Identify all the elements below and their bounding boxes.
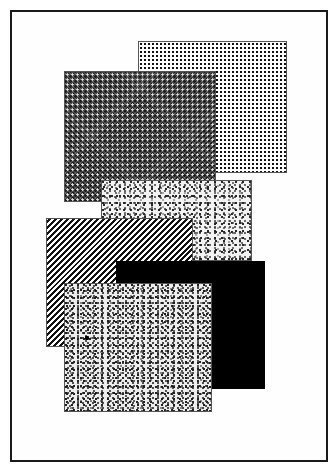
speckle-dark-mark bbox=[85, 336, 89, 340]
speckle-front-rectangle bbox=[64, 283, 212, 412]
